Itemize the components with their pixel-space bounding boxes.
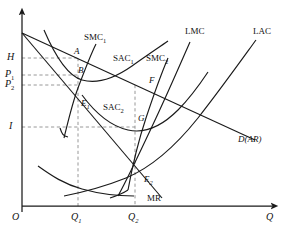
demand-label: D(AR)	[238, 135, 262, 144]
smc1-label: SMC1	[84, 33, 106, 44]
lmc-label: LMC	[185, 27, 205, 36]
mr-label: MR	[147, 194, 161, 203]
point-g-label: G	[138, 114, 145, 123]
demand-ar-curve	[22, 33, 255, 140]
y-tick-p2: P2	[5, 79, 14, 92]
smc2-label: SMC2	[146, 54, 168, 65]
point-a-label: A	[74, 47, 80, 56]
sac2-label: SAC2	[103, 103, 124, 114]
y-tick-h: H	[7, 52, 14, 62]
y-tick-i: I	[9, 121, 12, 131]
x-tick-q2: Q2	[128, 212, 138, 225]
figure-canvas: H P1 P2 I O Q1 Q2 Q SMC1 SAC1 SMC2 LMC L…	[0, 0, 284, 243]
x-tick-q1: Q1	[71, 212, 81, 225]
smc2-curve	[128, 58, 168, 190]
point-e2-label: E2	[144, 175, 153, 186]
point-f-label: F	[149, 76, 155, 85]
smc1-lower-tail	[60, 128, 68, 137]
x-axis-label: Q	[266, 212, 273, 222]
point-b-label: B	[78, 66, 84, 75]
point-e1-label: E1	[81, 99, 90, 110]
sac1-label: SAC1	[113, 54, 134, 65]
lac-label: LAC	[253, 27, 271, 36]
origin-label: O	[12, 212, 19, 222]
